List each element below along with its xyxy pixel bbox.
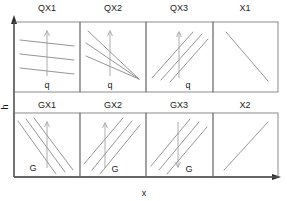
x-axis-label: x [142,188,147,198]
curve-line [88,31,139,79]
panel-gx1: GX1 G [14,100,80,177]
panel-title-gx1: GX1 [38,100,56,110]
panel-title-x2: X2 [239,100,250,110]
curve-line [84,118,123,164]
curve-line [34,118,73,170]
panel-qx2: QX2 q [80,3,146,92]
panel-title-x1: X1 [239,3,250,13]
panel-frame-x1 [213,22,278,92]
curve-set-qx3 [152,32,208,82]
y-axis-label: h [0,104,10,109]
panel-qx3: QX3 q [146,3,213,92]
panel-title-qx1: QX1 [38,3,56,13]
figure-canvas: h x QX1 q QX2 [0,0,287,201]
curve-line [92,121,132,170]
curve-line [86,43,139,79]
panel-title-qx2: QX2 [104,3,122,13]
curve-line [86,56,139,79]
shift-label-qx3: q [185,80,190,90]
shift-label-gx3: G [185,164,192,174]
curve-line [100,125,140,174]
panel-x1: X1 [213,3,278,92]
shift-arrow-gx2 [103,123,108,169]
panel-x2: X2 [213,100,278,177]
curve-line [159,122,199,170]
shift-label-qx1: q [44,80,49,90]
shift-arrow-qx3 [177,32,182,79]
curve-line [18,121,56,174]
panel-qx1: QX1 q [14,3,80,92]
curve-set-gx1 [18,118,73,174]
figure-container: h x QX1 q QX2 [0,0,287,201]
shift-label-gx2: G [111,164,118,174]
panel-gx2: GX2 G [80,100,146,177]
curve-line [224,122,268,170]
curve-line [152,32,193,78]
panel-gx3: GX3 G [146,100,213,177]
curve-line [226,32,268,81]
panel-title-gx3: GX3 [170,100,188,110]
curve-set-x1 [226,32,268,81]
curve-line [161,34,202,80]
shift-label-qx2: q [107,80,112,90]
panel-title-qx3: QX3 [170,3,188,13]
panel-frame-x2 [213,113,278,177]
panel-title-gx2: GX2 [104,100,122,110]
curve-set-qx2 [86,31,139,79]
shift-arrow-qx1 [45,31,50,77]
curve-set-x2 [224,122,268,170]
shift-label-gx1: G [29,163,36,173]
curve-line [151,119,190,166]
curve-line [170,39,208,82]
